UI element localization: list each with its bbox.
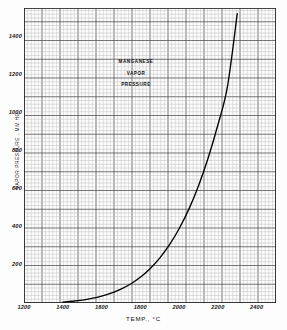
x-tick-label: 2000 bbox=[172, 304, 185, 310]
x-tick-label: 1400 bbox=[56, 304, 69, 310]
x-tick-label: 1800 bbox=[134, 304, 147, 310]
x-tick-label: 1200 bbox=[17, 304, 30, 310]
chart-figure: MANGANESE VAPOR PRESSURE 200400600800100… bbox=[0, 0, 287, 330]
x-axis-title: TEMP., °C bbox=[0, 315, 287, 322]
x-tick-label: 2400 bbox=[250, 304, 263, 310]
x-tick-label: 1600 bbox=[95, 304, 108, 310]
x-axis-tick-labels: 1200140016001800200022002400 bbox=[0, 0, 287, 330]
x-tick-label: 2200 bbox=[211, 304, 224, 310]
y-axis-title: VAPOR PRESSURE , MM HG bbox=[15, 96, 20, 206]
